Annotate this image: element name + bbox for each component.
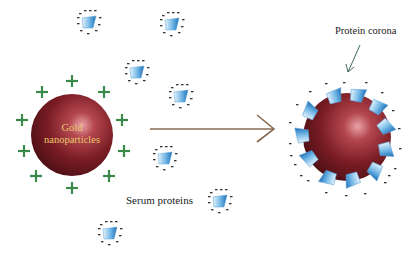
corona-pointer-arrow [346,45,360,72]
nanoparticle-label-line2: nanoparticles [32,134,112,146]
serum-proteins-label: Serum proteins [126,194,193,206]
nanoparticle-label: Gold nanoparticles [32,122,112,146]
reaction-arrow [150,115,274,142]
nanoparticle-label-line1: Gold [32,122,112,134]
coated-nanoparticle [289,82,402,196]
protein-corona-label: Protein corona [335,25,397,36]
